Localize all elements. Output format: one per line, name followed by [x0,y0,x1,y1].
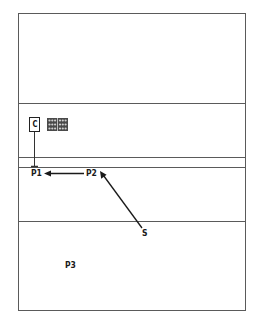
label-c: C [32,120,37,129]
label-p2: P2 [86,169,97,178]
arrow-p2-to-p1 [44,171,84,177]
label-p3: P3 [65,261,76,270]
diagram-svg [0,0,256,333]
label-s: S [142,229,148,238]
component-c-box: C [29,117,40,132]
grid-pattern-icon [47,118,68,131]
arrow-s-to-p2 [100,171,142,228]
outer-frame [19,14,246,311]
label-p1: P1 [31,169,42,178]
diagram-canvas: C P1 P2 S P3 [0,0,256,333]
